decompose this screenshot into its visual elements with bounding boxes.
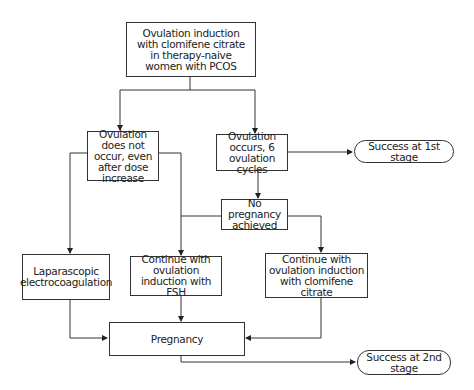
success-1st-stage-node: Success at 1st stage	[354, 140, 454, 163]
success-2nd-stage-node: Success at 2nd stage	[357, 350, 451, 375]
fsh-node: Continue with ovulation induction with F…	[130, 256, 222, 296]
no-ovulation-node: Ovulation does not occur, even after dos…	[87, 131, 159, 181]
start-node: Ovulation induction with clomifene citra…	[126, 22, 256, 77]
clomifene-node: Continue with ovulation induction with c…	[265, 253, 368, 298]
laparoscopic-node: Laparascopic electrocoagulation	[22, 254, 110, 300]
pregnancy-node: Pregnancy	[109, 322, 245, 356]
ovulation-node: Ovulation occurs, 6 ovulation cycles	[216, 134, 288, 171]
no-pregnancy-node: No pregnancy achieved	[221, 199, 288, 230]
